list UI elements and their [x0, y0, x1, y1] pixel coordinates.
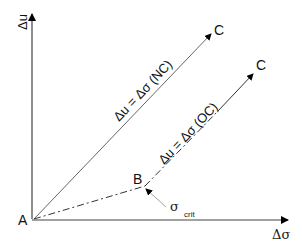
- stress-path-diagram: Δu Δσ A B C C Δu = Δσ (NC) Δu = Δσ (OC) …: [0, 0, 302, 249]
- point-b-label: B: [133, 171, 142, 187]
- point-c-oc-label: C: [256, 57, 266, 73]
- crit-subscript: crit: [184, 210, 195, 219]
- oc-path-segment-ab: [34, 186, 145, 219]
- point-a-label: A: [18, 212, 28, 228]
- point-c-nc-label: C: [214, 22, 224, 38]
- oc-path-segment-bc-solid: [218, 74, 253, 111]
- sigma-crit-label: σ crit: [170, 199, 195, 219]
- oc-path-label: Δu = Δσ (OC): [155, 99, 220, 167]
- x-axis-label: Δσ: [272, 227, 290, 242]
- sigma-crit-pointer: [146, 189, 166, 207]
- sigma-symbol: σ: [170, 199, 179, 214]
- nc-path-label: Δu = Δσ (NC): [110, 57, 175, 124]
- y-axis-label: Δu: [15, 14, 30, 30]
